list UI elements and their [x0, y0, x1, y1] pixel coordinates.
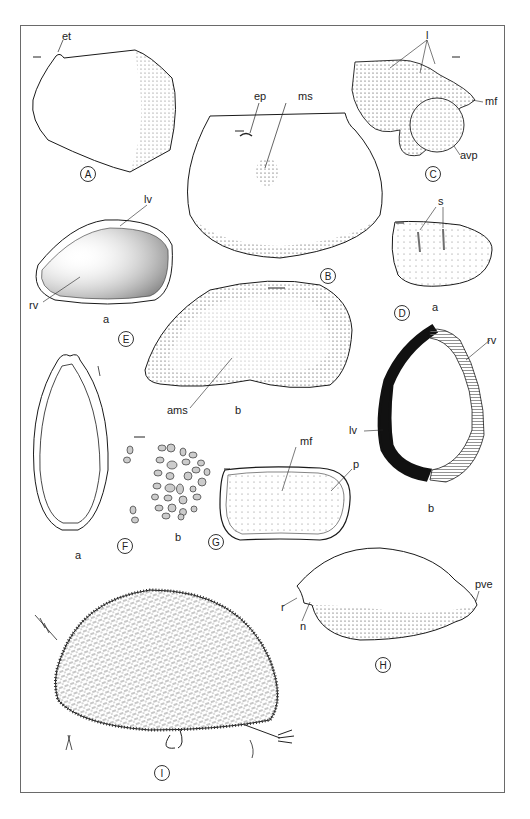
panel-e-b-valve	[145, 281, 352, 408]
sublabel-f-b: b	[175, 532, 181, 543]
annotation-avp: avp	[460, 150, 478, 161]
panel-e-a-valves	[36, 205, 172, 304]
panel-c-valve	[352, 40, 483, 156]
panel-f-a-section	[34, 355, 109, 530]
illustration-canvas	[0, 0, 530, 819]
sublabel-d-b: b	[428, 503, 434, 514]
panel-label-g: G	[208, 534, 224, 550]
panel-label-f: F	[117, 538, 133, 554]
annotation-lv-e: lv	[144, 194, 152, 205]
panel-label-h: H	[375, 657, 391, 673]
panel-h-valve	[283, 548, 479, 640]
panel-label-b: B	[320, 268, 336, 284]
annotation-ep: ep	[254, 91, 266, 102]
panel-f-b-cluster	[124, 437, 211, 523]
annotation-mf-g: mf	[300, 436, 312, 447]
panel-a-valve	[33, 40, 176, 172]
panel-label-c: C	[425, 166, 441, 182]
panel-b-valve	[188, 103, 383, 258]
annotation-rv-d: rv	[487, 335, 496, 346]
annotation-ms: ms	[298, 91, 313, 102]
annotation-l: l	[426, 30, 428, 41]
sublabel-e-b: b	[235, 405, 241, 416]
panel-d-b-section	[364, 326, 490, 482]
annotation-mf-c: mf	[485, 96, 497, 107]
panel-g-valve	[220, 447, 352, 540]
panel-i-animal	[35, 590, 294, 758]
sublabel-e-a: a	[103, 314, 109, 325]
annotation-lv-d: lv	[349, 425, 357, 436]
annotation-s: s	[438, 196, 444, 207]
annotation-rv-e: rv	[29, 300, 38, 311]
panel-label-a: A	[80, 166, 96, 182]
annotation-r: r	[281, 602, 285, 613]
panel-label-i: I	[154, 765, 170, 781]
annotation-p: p	[353, 459, 359, 470]
sublabel-f-a: a	[75, 550, 81, 561]
annotation-ams: ams	[167, 405, 188, 416]
panel-label-d: D	[394, 305, 410, 321]
annotation-n: n	[300, 621, 306, 632]
annotation-pve: pve	[475, 579, 493, 590]
annotation-et: et	[62, 31, 71, 42]
panel-d-a-valve	[392, 207, 492, 286]
sublabel-d-a: a	[432, 302, 438, 313]
panel-label-e: E	[118, 331, 134, 347]
